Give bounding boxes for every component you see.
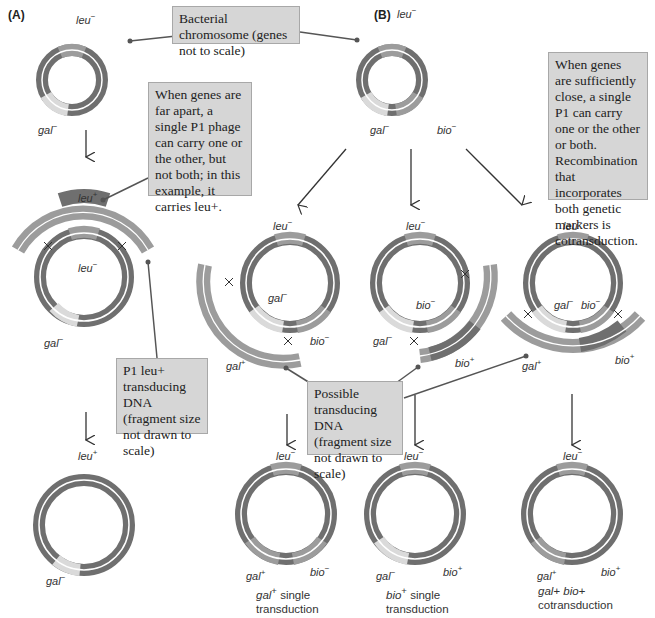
- close-genes-callout: When genes are sufficiently close, a sin…: [548, 52, 648, 200]
- gene-label: leu−: [76, 12, 95, 26]
- possible-transducing-callout: Possible transducing DNA (fragment size …: [307, 381, 403, 455]
- ring-b-bottom-right: [527, 468, 617, 559]
- panel-b-label: (B): [374, 8, 391, 22]
- p1-leu-callout: P1 leu+ transducing DNA (fragment size n…: [116, 358, 208, 434]
- gene-label: bio+: [455, 355, 474, 369]
- gene-label: bio+: [601, 564, 620, 578]
- panel-a-label: (A): [8, 8, 25, 22]
- gene-label: gal+: [226, 358, 245, 372]
- gene-label: bio−: [310, 564, 329, 578]
- outcome-caption: bio+ singletransduction: [386, 584, 449, 616]
- gene-label: leu−: [276, 448, 295, 462]
- ring-a-bottom: [39, 480, 129, 570]
- gene-label: bio+: [443, 564, 462, 578]
- ring-b-mid-right: [506, 238, 640, 346]
- outcome-caption: gal+ singletransduction: [256, 584, 319, 616]
- gene-label: bio−: [416, 297, 435, 311]
- gene-label: gal+: [522, 358, 541, 372]
- gene-label: leu−: [397, 6, 416, 20]
- gene-label: leu−: [563, 448, 582, 462]
- ring-a-top: [42, 50, 102, 110]
- gene-label: gal−: [376, 568, 395, 582]
- gene-label: leu+: [78, 448, 97, 462]
- gene-label: gal−: [370, 122, 389, 136]
- gene-label: gal−: [268, 290, 287, 304]
- transduction-diagram: (A) (B) leu− gal− leu− gal− bio− leu+ le…: [0, 0, 655, 618]
- far-apart-callout: When genes are far apart, a single P1 ph…: [148, 82, 252, 196]
- gene-label: leu+: [78, 190, 97, 204]
- gene-label: gal−: [44, 335, 63, 349]
- gene-label: gal−: [38, 122, 57, 136]
- gene-label: bio−: [310, 333, 329, 347]
- gene-label: leu−: [273, 218, 292, 232]
- gene-label: gal+: [537, 568, 556, 582]
- gene-label: bio−: [581, 297, 600, 311]
- gene-label: bio+: [615, 352, 634, 366]
- gene-label: gal−: [373, 333, 392, 347]
- outcome-caption: gal+ bio+cotransduction: [538, 584, 613, 612]
- gene-label: gal−: [554, 297, 573, 311]
- gene-label: gal+: [246, 568, 265, 582]
- ring-b-bottom-center: [370, 468, 460, 559]
- chromosome-callout: Bacterial chromosome (genes not to scale…: [172, 6, 300, 44]
- ring-b-top: [362, 50, 422, 110]
- ring-a-mid: [18, 196, 148, 321]
- gene-label: bio−: [437, 122, 456, 136]
- gene-label: leu−: [404, 448, 423, 462]
- gene-label: gal−: [46, 573, 65, 587]
- gene-label: leu−: [406, 218, 425, 232]
- gene-label: leu−: [78, 260, 97, 274]
